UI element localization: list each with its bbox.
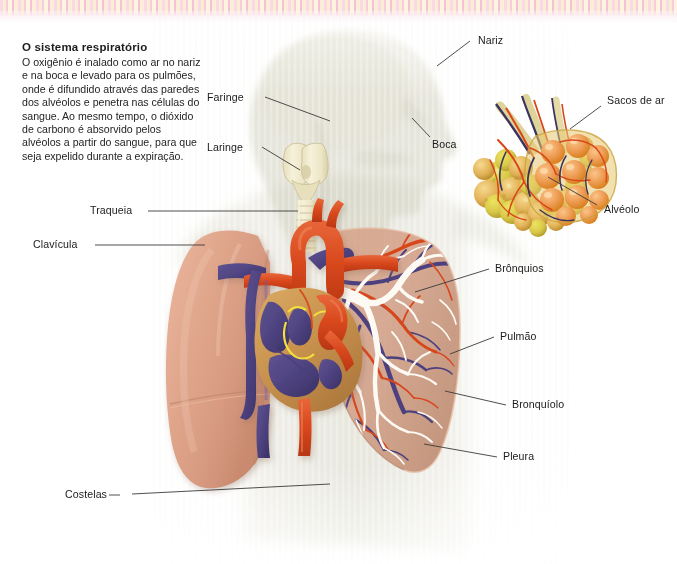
label-costelas: Costelas xyxy=(65,488,107,500)
decorative-top-band-fade xyxy=(0,13,677,23)
label-alveolo: Alvéolo xyxy=(604,203,639,215)
leader-bronquios xyxy=(415,269,489,292)
article-body: O oxigênio é inalado como ar no nariz e … xyxy=(22,56,202,163)
illustration-canvas: O sistema respiratório O oxigênio é inal… xyxy=(0,0,677,564)
leader-bronquiolo xyxy=(445,391,506,405)
article-heading: O sistema respiratório xyxy=(22,41,202,53)
label-pulmao: Pulmão xyxy=(500,330,537,342)
leader-alveolo xyxy=(548,177,597,205)
label-laringe: Laringe xyxy=(207,141,243,153)
leader-costelas xyxy=(132,484,330,494)
article-text-block: O sistema respiratório O oxigênio é inal… xyxy=(22,41,202,163)
leader-pleura xyxy=(424,444,497,457)
leader-faringe xyxy=(265,97,330,121)
leader-laringe xyxy=(262,147,300,170)
label-boca: Boca xyxy=(432,138,457,150)
label-bronquiolo: Bronquíolo xyxy=(512,398,564,410)
label-pleura: Pleura xyxy=(503,450,534,462)
leader-nariz xyxy=(437,41,470,66)
label-sacos-de-ar: Sacos de ar xyxy=(607,93,667,107)
leader-boca xyxy=(412,118,430,137)
label-nariz: Nariz xyxy=(478,34,503,46)
label-traqueia: Traqueia xyxy=(90,204,132,216)
leader-pulmao xyxy=(450,337,494,354)
label-clavicula: Clavícula xyxy=(33,238,77,250)
label-faringe: Faringe xyxy=(207,91,244,103)
leader-sacos-de-ar xyxy=(570,106,601,129)
label-bronquios: Brônquios xyxy=(495,262,544,274)
